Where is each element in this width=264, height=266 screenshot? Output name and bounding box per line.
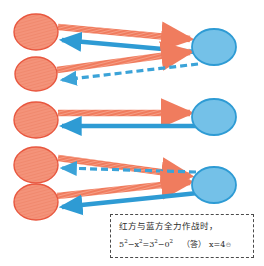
red-unit-2: [15, 57, 57, 91]
blue-attack-arrow-1: [62, 40, 196, 52]
note-heading: 红方与蓝方全力作战时，: [119, 220, 246, 232]
battle-diagram: 红方与蓝方全力作战时， 52−x2=32−02（答）x=4⊖: [0, 0, 264, 266]
red-unit-3: [14, 102, 58, 138]
red-attack-arrow-1: [58, 27, 190, 39]
answer-tail-symbol: ⊖: [225, 241, 231, 249]
blue-unit-2: [192, 99, 236, 135]
engagement-group-3: [14, 147, 236, 220]
engagement-group-2: [14, 99, 236, 138]
annotation-note-box: 红方与蓝方全力作战时， 52−x2=32−02（答）x=4⊖: [110, 214, 254, 258]
equation-rhs-exp-2: 2: [170, 238, 174, 244]
red-unit-5: [14, 184, 58, 220]
equation-minus-1: −: [128, 240, 135, 249]
blue-unit-3: [192, 167, 236, 203]
red-attack-arrow-4: [58, 158, 190, 176]
red-unit-4: [14, 147, 58, 183]
note-equation: 52−x2=32−02（答）x=4⊖: [119, 235, 246, 252]
equation-minus-2: −: [158, 240, 165, 249]
engagement-group-1: [14, 14, 236, 91]
blue-unit-1: [192, 29, 236, 65]
answer-label: （答）: [182, 240, 206, 249]
red-unit-1: [14, 14, 58, 50]
answer-value: x=4: [209, 240, 225, 249]
